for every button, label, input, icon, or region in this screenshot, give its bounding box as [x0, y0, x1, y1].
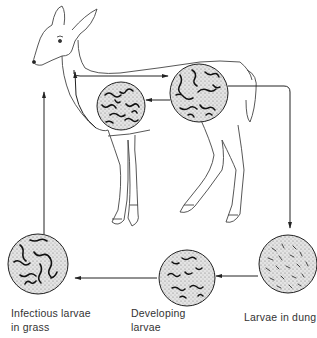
life-cycle-diagram — [0, 0, 317, 338]
gut-worm-circle — [170, 64, 228, 122]
label-larvae-in-dung: Larvae in dung — [244, 310, 316, 324]
stage-circle-dung — [259, 235, 317, 293]
cycle-arrows — [44, 92, 258, 278]
lungs-worm-circle — [97, 82, 145, 130]
stage-circle-developing — [159, 250, 215, 306]
label-infectious-larvae: Infectious larvae in grass — [11, 306, 91, 334]
stage-circle-infectious — [8, 234, 68, 294]
label-developing-larvae: Developing larvae — [131, 306, 186, 334]
deer-illustration — [32, 6, 256, 226]
